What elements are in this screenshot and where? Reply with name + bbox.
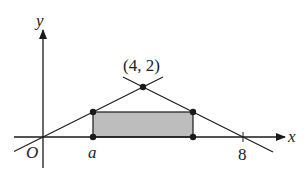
origin-label: O (26, 143, 38, 162)
peak-point (140, 84, 146, 90)
y-axis-label: y (34, 11, 44, 30)
peak-label: (4, 2) (123, 56, 160, 75)
right-top-point (190, 109, 196, 115)
left-bottom-point (90, 134, 96, 140)
right-bottom-point (190, 134, 196, 140)
a-label: a (88, 143, 97, 162)
eight-label: 8 (238, 145, 247, 164)
left-top-point (90, 109, 96, 115)
diagram: y x O a 8 (4, 2) (0, 0, 305, 178)
x-axis-label: x (287, 127, 296, 146)
inscribed-rectangle (93, 112, 193, 137)
